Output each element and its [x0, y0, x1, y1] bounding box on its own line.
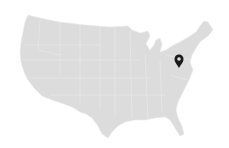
us-map	[0, 0, 229, 148]
us-land	[20, 15, 213, 138]
pin-hole	[177, 57, 181, 61]
